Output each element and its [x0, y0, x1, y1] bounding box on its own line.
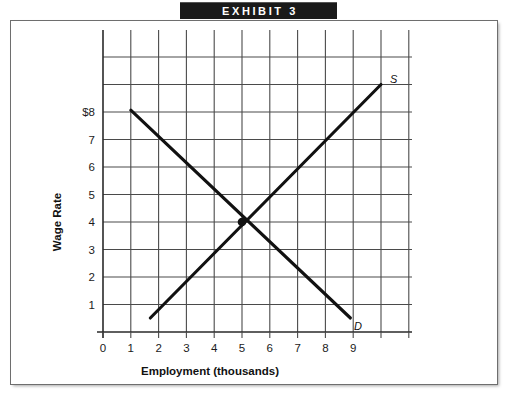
x-tick-2: 2: [155, 342, 161, 354]
x-tick-0: 0: [100, 342, 106, 354]
x-tick-5: 5: [239, 342, 245, 354]
demand-curve-label: D: [354, 320, 362, 332]
vertical-gridlines: [131, 30, 409, 332]
y-tick-3: 3: [89, 244, 95, 256]
x-tick-9: 9: [350, 342, 356, 354]
y-tick-5: 5: [89, 189, 95, 201]
equilibrium-point: [238, 218, 247, 227]
y-tick-6: 6: [89, 161, 95, 173]
x-tick-marks: [103, 332, 409, 338]
x-tick-8: 8: [322, 342, 328, 354]
supply-curve-label: S: [390, 73, 398, 85]
y-tick-1: 1: [89, 299, 95, 311]
y-tick-labels: $8 7 6 5 4 3 2 1: [82, 106, 95, 311]
horizontal-gridlines: [103, 57, 412, 305]
supply-demand-chart: S D $8 7 6 5 4 3 2 1 0 1 2 3 4 5 6 7 8: [0, 0, 509, 393]
y-tick-7: 7: [89, 134, 95, 146]
x-axis-title: Employment (thousands): [141, 365, 279, 377]
x-tick-labels: 0 1 2 3 4 5 6 7 8 9: [100, 342, 357, 354]
x-tick-1: 1: [128, 342, 134, 354]
y-axis-title: Wage Rate: [51, 193, 63, 251]
supply-curve: [150, 85, 381, 319]
x-tick-3: 3: [183, 342, 189, 354]
y-tick-8: $8: [82, 106, 95, 118]
x-tick-4: 4: [211, 342, 218, 354]
y-tick-2: 2: [89, 271, 95, 283]
demand-curve: [131, 110, 351, 318]
x-tick-6: 6: [267, 342, 273, 354]
x-tick-7: 7: [294, 342, 300, 354]
y-tick-4: 4: [89, 216, 96, 228]
